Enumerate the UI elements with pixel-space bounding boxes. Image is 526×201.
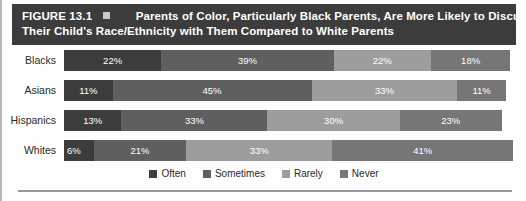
legend-label: Never: [352, 168, 379, 179]
bar-segment-never[interactable]: 23%: [400, 110, 502, 131]
legend-swatch-icon: [282, 170, 290, 178]
row-label: Asians: [2, 84, 64, 96]
figure-title-banner: FIGURE 13.1 Parents of Color, Particular…: [12, 4, 516, 45]
figure-title-text-2: Their Child's Race/Ethnicity with Them C…: [22, 24, 506, 39]
bar-segment-sometimes[interactable]: 21%: [94, 140, 187, 161]
row-label: Hispanics: [2, 114, 64, 126]
stacked-bar: 6% 21% 33% 41%: [64, 140, 506, 161]
chart-row-hispanics: Hispanics 13% 33% 30% 23%: [2, 109, 526, 131]
legend-item-often[interactable]: Often: [149, 168, 185, 179]
stacked-bar: 13% 33% 30% 23%: [64, 110, 506, 131]
bar-segment-often[interactable]: 22%: [64, 50, 161, 71]
square-bullet-icon: [103, 12, 110, 19]
figure-bottom-rule: [18, 190, 512, 192]
legend-swatch-icon: [340, 170, 348, 178]
legend-label: Often: [161, 168, 185, 179]
bar-segment-sometimes[interactable]: 33%: [121, 110, 267, 131]
bar-segment-never[interactable]: 11%: [457, 80, 506, 101]
bar-segment-sometimes[interactable]: 39%: [161, 50, 333, 71]
bar-segment-often[interactable]: 13%: [64, 110, 121, 131]
bar-segment-often[interactable]: 11%: [64, 80, 113, 101]
chart-row-asians: Asians 11% 45% 33% 11%: [2, 79, 526, 101]
legend-swatch-icon: [203, 170, 211, 178]
figure-title-line-1: FIGURE 13.1 Parents of Color, Particular…: [22, 9, 506, 24]
figure-container: FIGURE 13.1 Parents of Color, Particular…: [0, 0, 526, 201]
bar-segment-rarely[interactable]: 33%: [312, 80, 458, 101]
bar-segment-never[interactable]: 18%: [431, 50, 511, 71]
bar-segment-never[interactable]: 41%: [332, 140, 513, 161]
legend-swatch-icon: [149, 170, 157, 178]
legend-label: Sometimes: [215, 168, 265, 179]
legend-item-rarely[interactable]: Rarely: [282, 168, 323, 179]
bar-segment-rarely[interactable]: 30%: [267, 110, 400, 131]
legend-item-never[interactable]: Never: [340, 168, 379, 179]
figure-number: FIGURE 13.1: [22, 10, 92, 22]
chart-legend: Often Sometimes Rarely Never: [2, 168, 526, 179]
row-label: Blacks: [2, 54, 64, 66]
row-label: Whites: [2, 144, 64, 156]
chart-row-whites: Whites 6% 21% 33% 41%: [2, 139, 526, 161]
bar-segment-rarely[interactable]: 33%: [186, 140, 332, 161]
stacked-bar: 22% 39% 22% 18%: [64, 50, 506, 71]
stacked-bar-chart: Blacks 22% 39% 22% 18% Asians 11% 45% 33…: [2, 49, 526, 167]
legend-label: Rarely: [294, 168, 323, 179]
bar-segment-often[interactable]: 6%: [64, 140, 94, 161]
bar-segment-rarely[interactable]: 22%: [334, 50, 431, 71]
stacked-bar: 11% 45% 33% 11%: [64, 80, 506, 101]
bar-segment-sometimes[interactable]: 45%: [113, 80, 312, 101]
figure-title-text-1: Parents of Color, Particularly Black Par…: [136, 10, 526, 22]
legend-item-sometimes[interactable]: Sometimes: [203, 168, 265, 179]
chart-row-blacks: Blacks 22% 39% 22% 18%: [2, 49, 526, 71]
